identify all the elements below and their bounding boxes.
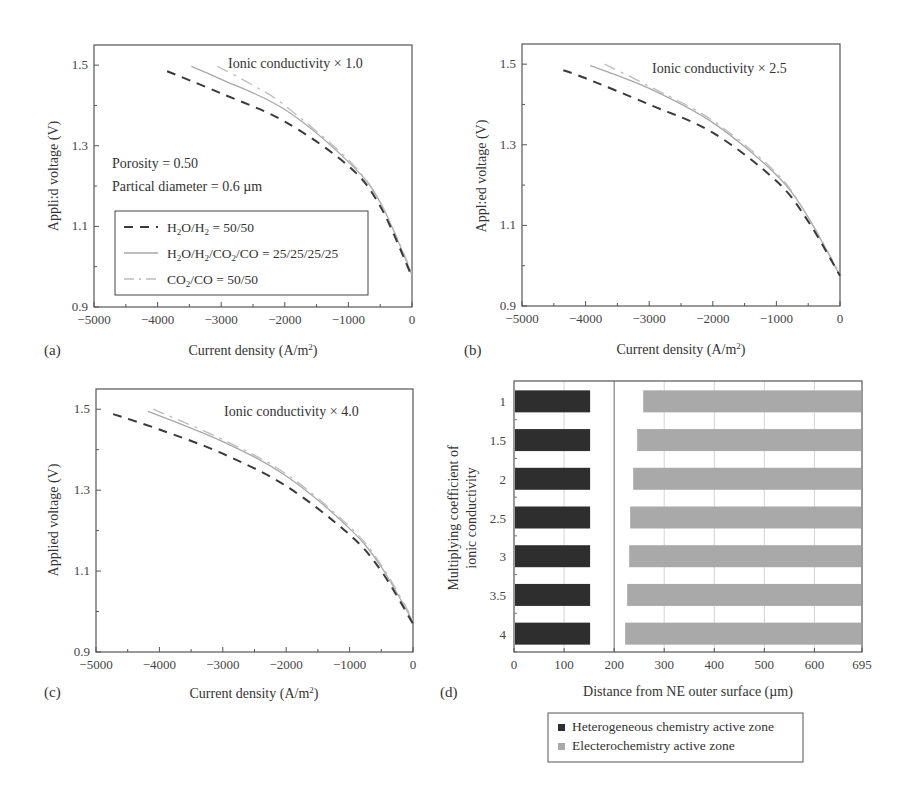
bar-heterogeneous-zone xyxy=(515,584,590,606)
y-tick-label: 1.1 xyxy=(72,218,88,233)
legend-label-electrochemistry: Electerochemistry active zone xyxy=(572,738,735,753)
y-tick-label: 1.1 xyxy=(74,563,90,578)
x-tick-label: 500 xyxy=(755,657,775,672)
bar-heterogeneous-zone xyxy=(515,545,590,567)
y-tick-label: 1.5 xyxy=(490,433,506,448)
x-tick-label: −5000 xyxy=(77,312,110,327)
bar-heterogeneous-zone xyxy=(515,390,590,412)
panel-b-plot-frame xyxy=(522,44,840,306)
panel-b-x-axis-title: Current density (A/m2) xyxy=(617,341,746,358)
panel-a-y-axis-title: Appli:d voltage (V) xyxy=(46,120,62,231)
panel-b-y-axis-title: Appl:ed voltage (V) xyxy=(474,119,490,232)
panel-d-y-axis-title-line2: ionic conductivity xyxy=(464,467,479,568)
y-tick-label: 1.1 xyxy=(500,217,516,232)
bar-heterogeneous-zone xyxy=(515,429,590,451)
y-tick-label: 0.9 xyxy=(500,298,516,313)
panel-b-label: (b) xyxy=(464,342,482,359)
bar-electrochemistry-zone xyxy=(633,468,861,490)
panel-b-curves xyxy=(563,64,840,276)
y-tick-label: 2 xyxy=(500,472,507,487)
panel-a-label: (a) xyxy=(44,342,61,359)
panel-b-line-chart: −5000−4000−3000−2000−100000.91.11.31.5 I… xyxy=(464,44,843,359)
panel-c-axes-ticks: −5000−4000−3000−2000−100000.91.11.31.5 xyxy=(74,401,417,672)
bar-electrochemistry-zone xyxy=(627,584,861,606)
x-tick-label: −2000 xyxy=(696,311,729,326)
curve-solid xyxy=(590,65,840,275)
bar-heterogeneous-zone xyxy=(515,507,590,529)
y-tick-label: 4 xyxy=(500,627,507,642)
panel-d-y-axis-title-line1: Multiplying coefficient of xyxy=(446,445,461,590)
panel-c-line-chart: −5000−4000−3000−2000−100000.91.11.31.5 I… xyxy=(44,389,416,702)
x-tick-label: −2000 xyxy=(268,312,301,327)
x-tick-label: −3000 xyxy=(206,657,239,672)
curve-solid xyxy=(148,411,413,621)
x-tick-label: −5000 xyxy=(79,657,112,672)
panel-d-bars xyxy=(515,390,861,644)
panel-a-x-axis-title: Current density (A/m2) xyxy=(189,342,318,359)
y-tick-label: 1 xyxy=(500,394,507,409)
bar-electrochemistry-zone xyxy=(630,507,861,529)
y-tick-label: 0.9 xyxy=(72,299,88,314)
y-tick-label: 3.5 xyxy=(490,588,506,603)
x-tick-label: 0 xyxy=(409,312,416,327)
x-tick-label: −3000 xyxy=(633,311,666,326)
figure-canvas: −5000−4000−3000−2000−100000.91.11.31.5 I… xyxy=(0,0,911,797)
y-tick-label: 1.3 xyxy=(74,482,90,497)
panel-c-label: (c) xyxy=(44,684,61,701)
x-tick-label: −1000 xyxy=(332,312,365,327)
legend-swatch-heterogeneous xyxy=(558,724,565,731)
panel-d-x-axis-title: Distance from NE outer surface (µm) xyxy=(583,684,793,700)
bar-electrochemistry-zone xyxy=(643,390,861,412)
x-tick-label: −4000 xyxy=(143,657,176,672)
legend-swatch-electrochemistry xyxy=(558,743,565,750)
panel-a-annotation: Ionic conductivity × 1.0 xyxy=(228,56,363,71)
panel-d-label: (d) xyxy=(440,684,458,701)
x-tick-label: −4000 xyxy=(141,312,174,327)
x-tick-label: −3000 xyxy=(205,312,238,327)
x-tick-label: −4000 xyxy=(569,311,602,326)
panel-a-porosity-annotation: Porosity = 0.50 xyxy=(112,156,198,171)
x-tick-label: 0 xyxy=(837,311,844,326)
panel-c-plot-frame xyxy=(96,389,413,652)
x-tick-label: 0 xyxy=(511,657,518,672)
x-tick-label: −5000 xyxy=(505,311,538,326)
bar-electrochemistry-zone xyxy=(625,623,861,645)
y-tick-label: 3 xyxy=(500,549,507,564)
bar-heterogeneous-zone xyxy=(515,623,590,645)
panel-a-legend: H2O/H2 = 50/50 H2O/H2/CO2/CO = 25/25/25/… xyxy=(115,211,368,295)
panel-c-y-axis-title: Applied voltage (V) xyxy=(46,463,62,576)
panel-a-line-chart: −5000−4000−3000−2000−100000.91.11.31.5 I… xyxy=(44,45,415,359)
legend-label-mixed: H2O/H2/CO2/CO = 25/25/25/25 xyxy=(167,246,338,263)
x-tick-label: 0 xyxy=(410,657,417,672)
x-tick-label: 100 xyxy=(554,657,574,672)
curve-dashdot xyxy=(605,64,840,274)
legend-label-heterogeneous: Heterogeneous chemistry active zone xyxy=(572,719,774,734)
bar-electrochemistry-zone xyxy=(629,545,861,567)
y-tick-label: 1.5 xyxy=(74,401,90,416)
y-tick-label: 1.3 xyxy=(72,138,88,153)
x-tick-label: 200 xyxy=(604,657,624,672)
panel-a-diameter-annotation: Partical diameter = 0.6 µm xyxy=(112,179,262,194)
panel-c-x-axis-title: Current density (A/m2) xyxy=(190,685,319,702)
curve-dashed xyxy=(113,414,413,624)
y-tick-label: 1.5 xyxy=(500,56,516,71)
panel-b-axes-ticks: −5000−4000−3000−2000−100000.91.11.31.5 xyxy=(500,56,844,326)
panel-c-curves xyxy=(113,409,413,624)
legend-label-co2-co: CO2/CO = 50/50 xyxy=(167,272,258,289)
curve-dashed xyxy=(563,70,840,276)
panel-b-annotation: Ionic conductivity × 2.5 xyxy=(652,61,787,76)
y-tick-label: 1.5 xyxy=(72,57,88,72)
y-tick-label: 2.5 xyxy=(490,511,506,526)
x-tick-label: 400 xyxy=(705,657,725,672)
x-tick-label: −2000 xyxy=(270,657,303,672)
y-tick-label: 1.3 xyxy=(500,137,516,152)
bar-electrochemistry-zone xyxy=(637,429,861,451)
panel-c-annotation: Ionic conductivity × 4.0 xyxy=(224,404,359,419)
bar-heterogeneous-zone xyxy=(515,468,590,490)
panel-d-bar-chart: 11.522.533.540100200300400500600695 Dist… xyxy=(440,381,872,762)
x-tick-label: 300 xyxy=(654,657,674,672)
x-tick-label: 695 xyxy=(852,657,872,672)
x-tick-label: 600 xyxy=(805,657,825,672)
panel-d-y-axis-title: Multiplying coefficient of ionic conduct… xyxy=(446,445,479,590)
y-tick-label: 0.9 xyxy=(74,644,90,659)
